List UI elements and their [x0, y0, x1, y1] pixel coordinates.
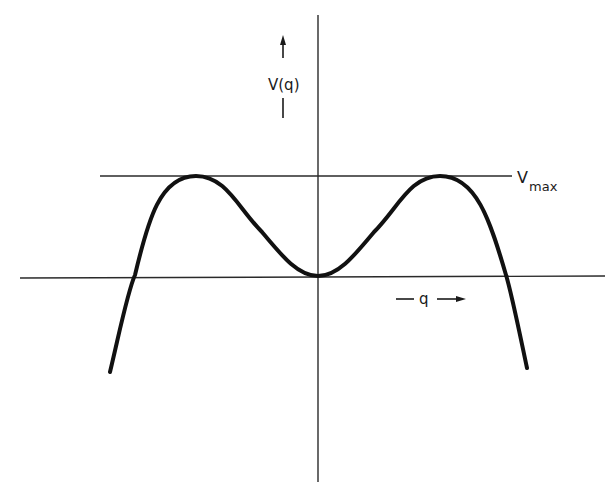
y-axis-label-group: V(q)	[268, 35, 300, 118]
x-axis-label: q	[419, 290, 429, 308]
vmax-label-group: V max	[517, 168, 558, 194]
y-axis-label: V(q)	[268, 76, 300, 94]
vmax-label-subscript: max	[529, 179, 558, 194]
arrowhead-right-icon	[456, 296, 466, 302]
potential-diagram: V(q) V max q	[0, 0, 612, 497]
vmax-label-main: V	[517, 168, 528, 187]
arrowhead-up-icon	[280, 35, 286, 45]
x-axis-label-group: q	[396, 290, 466, 308]
